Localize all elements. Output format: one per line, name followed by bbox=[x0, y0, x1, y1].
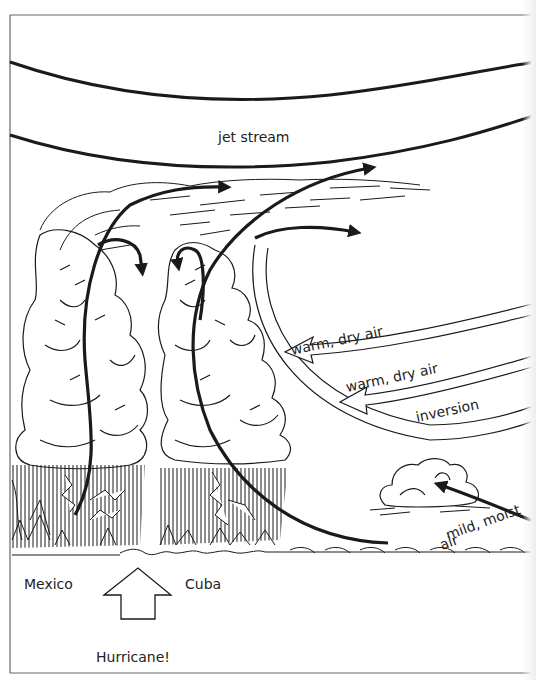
diagram-svg: jet stream bbox=[0, 0, 536, 680]
inversion-label: inversion bbox=[414, 396, 480, 425]
small-cumulus-cloud bbox=[370, 459, 490, 515]
thunderstorm-cloud-middle bbox=[159, 243, 291, 464]
jet-stream-band: jet stream bbox=[10, 62, 536, 167]
cuba-label: Cuba bbox=[185, 576, 221, 592]
mexico-label: Mexico bbox=[24, 576, 73, 592]
jet-stream-label: jet stream bbox=[217, 129, 290, 145]
warm-dry-air-arrow-1 bbox=[285, 303, 536, 363]
page-edge-shadow bbox=[522, 0, 536, 680]
hurricane-label: Hurricane! bbox=[96, 649, 170, 665]
diagram-canvas: jet stream bbox=[0, 0, 536, 680]
downturn-left bbox=[98, 240, 142, 270]
thunderstorm-cloud-left bbox=[16, 230, 148, 469]
ocean-waves bbox=[12, 547, 536, 555]
outflow-middle bbox=[255, 227, 355, 238]
downturn-middle bbox=[177, 248, 203, 320]
hurricane-up-arrow bbox=[104, 568, 171, 619]
frame bbox=[10, 15, 536, 673]
